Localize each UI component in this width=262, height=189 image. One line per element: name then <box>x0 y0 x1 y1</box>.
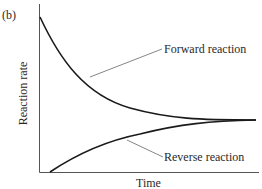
y-axis-label: Reaction rate <box>16 55 31 133</box>
forward-reaction-label: Forward reaction <box>164 42 246 57</box>
forward-leader-line <box>90 49 162 77</box>
reverse-leader-line <box>127 140 163 157</box>
x-axis-label: Time <box>136 176 161 189</box>
reverse-reaction-label: Reverse reaction <box>164 150 244 165</box>
forward-reaction-curve <box>40 17 256 120</box>
